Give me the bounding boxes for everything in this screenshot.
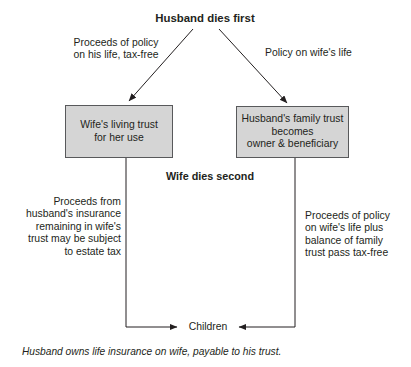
box-husband-family-trust: Husband's family trust becomes owner & b… xyxy=(236,106,349,158)
edge-label-left-bottom: Proceeds from husband's insurance remain… xyxy=(9,196,121,258)
box-wife-living-trust: Wife's living trust for her use xyxy=(65,105,173,158)
second-event-label: Wife dies second xyxy=(145,170,275,182)
edge-label-right-top: Policy on wife's life xyxy=(265,47,400,59)
terminal-children-label: Children xyxy=(182,321,234,333)
arrow-title-to-husband-trust xyxy=(219,29,287,103)
arrow-wife-trust-to-children xyxy=(126,158,177,327)
arrow-husband-trust-to-children xyxy=(239,158,295,327)
edge-label-left-top: Proceeds of policy on his life, tax-free xyxy=(60,37,172,62)
diagram-title: Husband dies first xyxy=(130,12,280,24)
estate-planning-flow-diagram: Husband dies first Proceeds of policy on… xyxy=(0,0,411,367)
box-husband-family-trust-label: Husband's family trust becomes owner & b… xyxy=(242,113,344,151)
footnote: Husband owns life insurance on wife, pay… xyxy=(22,346,402,358)
box-wife-living-trust-label: Wife's living trust for her use xyxy=(80,119,158,144)
edge-label-right-bottom: Proceeds of policy on wife's life plus b… xyxy=(305,210,410,260)
